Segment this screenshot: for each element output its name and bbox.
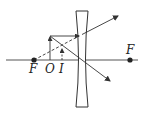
focus-right-label: F — [125, 43, 135, 57]
focus-left-label: F — [28, 62, 38, 76]
concave-lens — [76, 11, 88, 107]
image-label: I — [58, 62, 64, 76]
focus-right-point — [127, 57, 132, 62]
virtual-ray-extension — [34, 36, 79, 60]
object-label: O — [45, 62, 55, 76]
concave-lens-ray-diagram: F O I F — [0, 0, 147, 120]
